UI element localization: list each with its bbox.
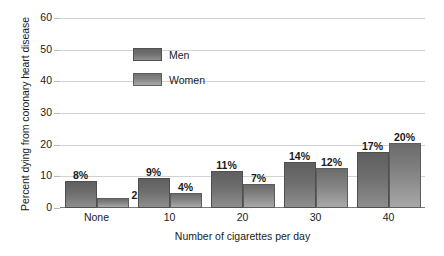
bar-group: 8%2.5%	[65, 18, 129, 208]
bar-men-40: 17%	[357, 152, 389, 208]
y-axis-tick-label: 30	[26, 106, 52, 118]
bar-group: 14%12%	[284, 18, 348, 208]
x-axis-tick-label: 30	[279, 211, 352, 223]
bar-value-label: 11%	[216, 159, 236, 171]
y-axis-tick-mark	[54, 208, 60, 209]
bar-women-10: 4%	[170, 193, 202, 208]
bar-women-20: 7%	[243, 184, 275, 208]
bar-value-label: 17%	[362, 140, 383, 152]
legend-swatch-men	[133, 48, 162, 61]
bar-value-label: 9%	[146, 166, 161, 178]
bar-group: 11%7%	[211, 18, 275, 208]
bar-value-label: 4%	[178, 181, 193, 193]
x-axis-tick-label: 10	[133, 211, 206, 223]
chart-legend: Men Women	[133, 48, 205, 98]
bar-women-30: 12%	[316, 168, 348, 208]
bar-men-none: 8%	[65, 181, 97, 208]
bar-women-none: 2.5%	[97, 198, 129, 208]
x-axis-tick-label: 20	[206, 211, 279, 223]
bar-chart: Percent dying from coronary heart diseas…	[0, 0, 444, 256]
y-axis-tick-label: 20	[26, 138, 52, 150]
bar-value-label: 12%	[321, 156, 342, 168]
legend-item-men: Men	[133, 48, 205, 61]
bar-group: 9%4%	[138, 18, 202, 208]
bar-value-label: 7%	[251, 172, 266, 184]
x-axis-tick-label: None	[60, 211, 133, 223]
bar-groups: 8%2.5%9%4%11%7%14%12%17%20%	[60, 18, 425, 208]
bar-men-20: 11%	[211, 171, 243, 208]
bar-value-label: 20%	[394, 131, 415, 143]
y-axis-tick-label: 40	[26, 74, 52, 86]
plot-area: 0102030405060 8%2.5%9%4%11%7%14%12%17%20…	[60, 18, 425, 208]
y-axis-tick-label: 10	[26, 169, 52, 181]
legend-label-women: Women	[169, 74, 205, 86]
bar-women-40: 20%	[389, 143, 421, 208]
y-axis-tick-label: 0	[26, 201, 52, 213]
bar-men-10: 9%	[138, 178, 170, 209]
legend-item-women: Women	[133, 73, 205, 86]
y-axis-tick-label: 60	[26, 11, 52, 23]
y-axis-tick-label: 50	[26, 43, 52, 55]
bar-value-label: 14%	[289, 150, 310, 162]
x-axis-tick-labels: None10203040	[60, 211, 425, 223]
x-axis-title: Number of cigarettes per day	[60, 230, 425, 242]
bar-men-30: 14%	[284, 162, 316, 208]
bar-group: 17%20%	[357, 18, 421, 208]
x-axis-tick-label: 40	[352, 211, 425, 223]
legend-swatch-women	[133, 73, 162, 86]
legend-label-men: Men	[169, 49, 189, 61]
bar-value-label: 8%	[73, 169, 88, 181]
